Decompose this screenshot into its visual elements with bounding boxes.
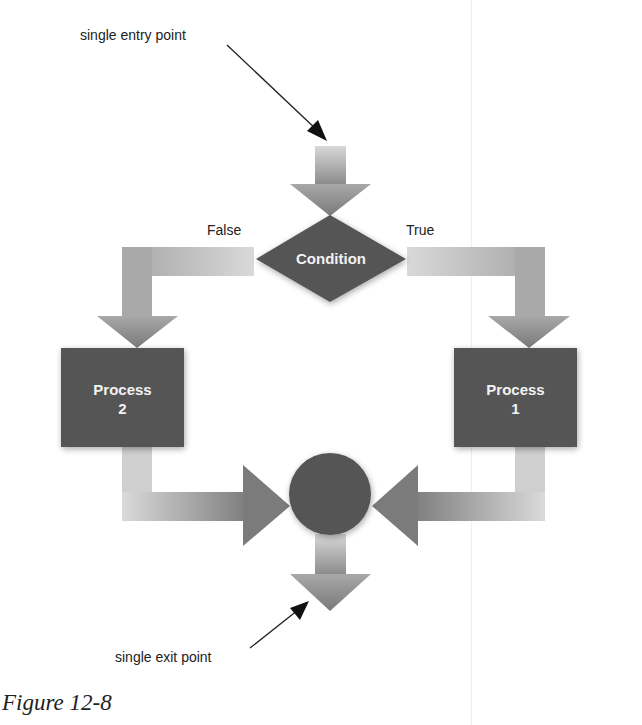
process-1-label: Process 1 xyxy=(454,380,577,418)
false-branch-label: False xyxy=(207,222,241,238)
true-branch-arrow-icon xyxy=(407,247,570,348)
exit-pointer-arrow-icon xyxy=(250,601,309,648)
merge-left-arrow-icon xyxy=(122,447,290,546)
merge-junction-circle xyxy=(289,453,371,535)
process-2-number: 2 xyxy=(61,399,184,418)
entry-pointer-arrow-icon xyxy=(227,45,327,141)
process-1-title: Process xyxy=(454,380,577,399)
flowchart-canvas xyxy=(0,0,642,725)
process-2-title: Process xyxy=(61,380,184,399)
process-1-number: 1 xyxy=(454,399,577,418)
process-2-label: Process 2 xyxy=(61,380,184,418)
figure-caption: Figure 12-8 xyxy=(2,690,112,716)
merge-right-arrow-icon xyxy=(372,447,545,546)
entry-flow-arrow-icon xyxy=(290,146,371,216)
entry-point-label: single entry point xyxy=(80,27,186,43)
true-branch-label: True xyxy=(406,222,434,238)
false-branch-arrow-icon xyxy=(97,247,254,348)
exit-flow-arrow-icon xyxy=(290,534,371,611)
condition-label: Condition xyxy=(256,249,406,268)
exit-point-label: single exit point xyxy=(115,649,212,665)
